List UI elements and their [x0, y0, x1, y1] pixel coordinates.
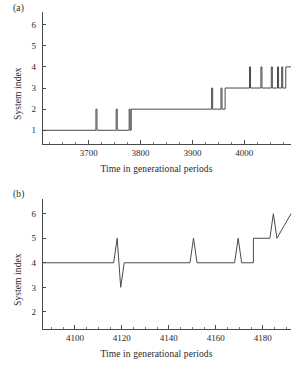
data-series-line: [42, 67, 291, 130]
panel-a-plot: 3700380039004000123456: [0, 0, 297, 186]
y-axis-tick-label: 4: [32, 258, 37, 268]
y-axis-tick-label: 3: [32, 283, 37, 293]
x-axis-tick-label: 4120: [113, 333, 132, 343]
panel-b-plot: 4100412041404160418023456: [0, 186, 297, 371]
y-axis-tick-label: 6: [32, 209, 37, 219]
y-axis-tick-label: 5: [32, 41, 37, 51]
chart-panel-a: (a) System index Time in generational pe…: [0, 0, 297, 186]
y-axis-tick-label: 3: [32, 83, 37, 93]
chart-panel-b: (b) System index Time in generational pe…: [0, 186, 297, 371]
x-axis-tick-label: 4000: [235, 148, 254, 158]
x-axis-tick-label: 4180: [254, 333, 273, 343]
y-axis-tick-label: 4: [32, 62, 37, 72]
y-axis-tick-label: 2: [32, 104, 37, 114]
y-axis-tick-label: 5: [32, 233, 37, 243]
y-axis-tick-label: 1: [32, 125, 37, 135]
y-axis-tick-label: 2: [32, 307, 37, 317]
x-axis-tick-label: 3900: [183, 148, 202, 158]
y-axis-tick-label: 6: [32, 20, 37, 30]
x-axis-tick-label: 4160: [207, 333, 226, 343]
x-axis-tick-label: 3700: [80, 148, 99, 158]
figure-container: (a) System index Time in generational pe…: [0, 0, 297, 371]
x-axis-tick-label: 4100: [66, 333, 85, 343]
x-axis-tick-label: 3800: [132, 148, 151, 158]
data-series-line: [42, 214, 291, 288]
x-axis-tick-label: 4140: [160, 333, 179, 343]
